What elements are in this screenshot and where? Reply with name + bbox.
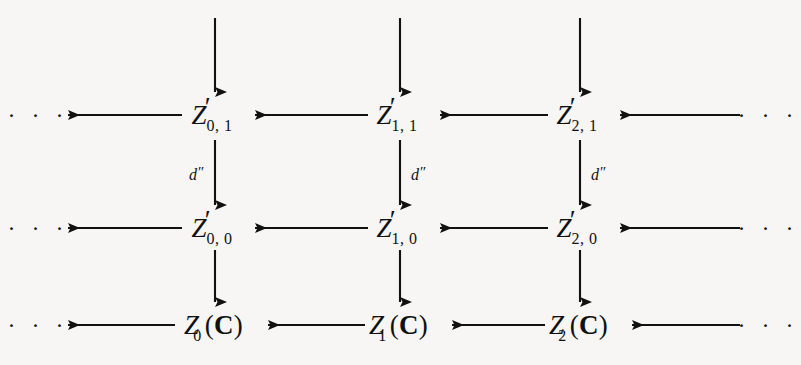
edge-label-dprime-col3: d″	[591, 167, 605, 183]
ellipsis-right-row3: · · ·	[738, 313, 799, 337]
node-subscript: 1	[378, 327, 387, 344]
node-subscript: 2, 0	[572, 230, 598, 247]
node-z-prime-1-0: Z′1, 0	[376, 215, 423, 242]
ellipsis-left-row2: · · ·	[8, 216, 69, 240]
node-z-prime-2-0: Z′2, 0	[556, 215, 603, 242]
node-z-prime-1-1: Z′1, 1	[376, 102, 423, 129]
edge-label-text: d	[591, 166, 599, 183]
node-z-1-of-c: Z1(C)	[369, 312, 431, 339]
node-argument: (C)	[570, 310, 608, 340]
node-argument: (C)	[205, 310, 243, 340]
ellipsis-left-row3: · · ·	[8, 313, 69, 337]
ellipsis-right-row1: · · ·	[738, 103, 799, 127]
edge-label-doubleprime: ″	[420, 164, 426, 180]
node-subscript: 2	[558, 327, 567, 344]
edge-label-dprime-col2: d″	[411, 167, 425, 183]
edge-label-text: d	[411, 166, 419, 183]
node-argument: (C)	[390, 310, 428, 340]
node-z-prime-0-1: Z′0, 1	[191, 102, 238, 129]
node-z-2-of-c: Z2(C)	[549, 312, 611, 339]
edge-label-text: d	[189, 166, 197, 183]
node-z-prime-0-0: Z′0, 0	[191, 215, 238, 242]
commutative-diagram: Z′0, 1 Z′1, 1 Z′2, 1 Z′0, 0 Z′1, 0 Z′2, …	[0, 0, 801, 365]
node-subscript: 0, 0	[207, 230, 233, 247]
node-subscript: 2, 1	[572, 117, 598, 134]
edge-label-doubleprime: ″	[600, 164, 606, 180]
edge-label-dprime-col1: d″	[189, 167, 203, 183]
node-subscript: 1, 0	[392, 230, 418, 247]
node-subscript: 0	[193, 327, 202, 344]
ellipsis-right-row2: · · ·	[738, 216, 799, 240]
node-z-0-of-c: Z0(C)	[184, 312, 246, 339]
node-z-prime-2-1: Z′2, 1	[556, 102, 603, 129]
node-subscript: 1, 1	[392, 117, 418, 134]
edge-label-doubleprime: ″	[198, 164, 204, 180]
node-subscript: 0, 1	[207, 117, 233, 134]
ellipsis-left-row1: · · ·	[8, 103, 69, 127]
